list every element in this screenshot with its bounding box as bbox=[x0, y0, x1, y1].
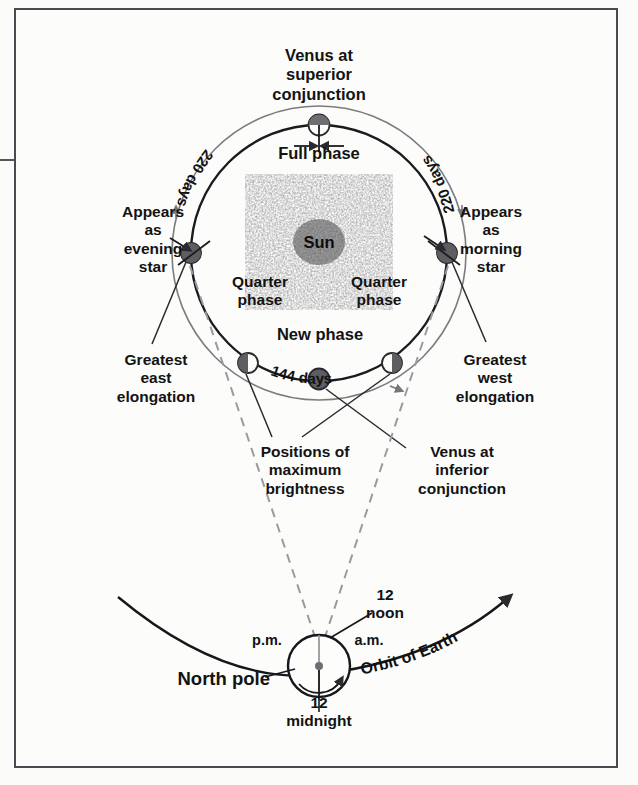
midnight-label: 12 midnight bbox=[276, 694, 362, 731]
interval-label-left: 220 days bbox=[174, 147, 217, 209]
earth-north-pole-dot bbox=[315, 662, 323, 670]
greatest-east-elongation-label: Greatest east elongation bbox=[93, 351, 219, 406]
pm-label: p.m. bbox=[243, 632, 291, 649]
venus-superior-conjunction-label: Venus at superior conjunction bbox=[229, 46, 409, 104]
new-phase-label: New phase bbox=[252, 325, 388, 344]
greatest-west-elongation-label: Greatest west elongation bbox=[432, 351, 558, 406]
leader-max-brightness-east bbox=[246, 374, 272, 437]
sun-label: Sun bbox=[303, 233, 334, 251]
venus-max-brightness-east-marker bbox=[238, 353, 258, 373]
quarter-phase-left-label: Quarter phase bbox=[214, 273, 306, 310]
interval-label-bottom: 144 days bbox=[269, 362, 333, 387]
max-brightness-label: Positions of maximum brightness bbox=[237, 443, 373, 498]
venus-inferior-conjunction-label: Venus at inferior conjunction bbox=[399, 443, 525, 498]
orbit-direction-arrow-bottom bbox=[390, 386, 400, 390]
am-label: a.m. bbox=[345, 632, 393, 649]
noon-label: 12 noon bbox=[350, 586, 420, 623]
venus-max-brightness-west-marker bbox=[382, 353, 402, 373]
figure-page: Sun bbox=[0, 0, 638, 785]
morning-star-label: Appears as morning star bbox=[436, 203, 546, 276]
leader-inferior-conjunction bbox=[326, 389, 406, 448]
full-phase-label: Full phase bbox=[249, 144, 389, 163]
north-pole-label: North pole bbox=[124, 668, 270, 690]
quarter-phase-right-label: Quarter phase bbox=[333, 273, 425, 310]
evening-star-label: Appears as evening star bbox=[100, 203, 206, 276]
